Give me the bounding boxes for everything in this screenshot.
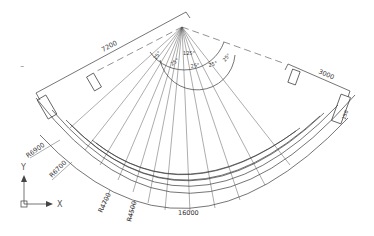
svg-text:R6700: R6700: [48, 159, 69, 180]
svg-text:R4500: R4500: [125, 200, 138, 222]
svg-text:150: 150: [340, 109, 349, 120]
svg-text:R4700: R4700: [97, 191, 113, 213]
svg-text:X: X: [57, 200, 63, 209]
svg-text:25°: 25°: [190, 61, 200, 69]
radius-labels: R6900 R6700 R4700 R4500: [25, 140, 139, 223]
svg-text:Y: Y: [20, 163, 26, 172]
dimension-7200: 7200: [36, 12, 190, 100]
radial-lines: [70, 27, 290, 212]
stray-mark: ~: [20, 63, 24, 69]
svg-text:125°: 125°: [183, 50, 196, 56]
left-end-block: [37, 73, 101, 119]
svg-text:25°: 25°: [152, 49, 162, 60]
svg-text:3000: 3000: [317, 68, 335, 82]
svg-text:~: ~: [20, 63, 24, 69]
svg-text:25°: 25°: [221, 52, 232, 63]
cad-drawing: ~ 7200 3000 125° 25°: [0, 0, 374, 236]
svg-text:7200: 7200: [100, 39, 118, 54]
structure-arcs: [36, 95, 355, 193]
svg-text:16000: 16000: [178, 209, 199, 217]
dimension-3000: 3000: [285, 64, 350, 97]
angle-arcs: 125° 25° 25° 25° 25° 25°: [150, 42, 235, 90]
svg-text:25°: 25°: [208, 60, 219, 68]
